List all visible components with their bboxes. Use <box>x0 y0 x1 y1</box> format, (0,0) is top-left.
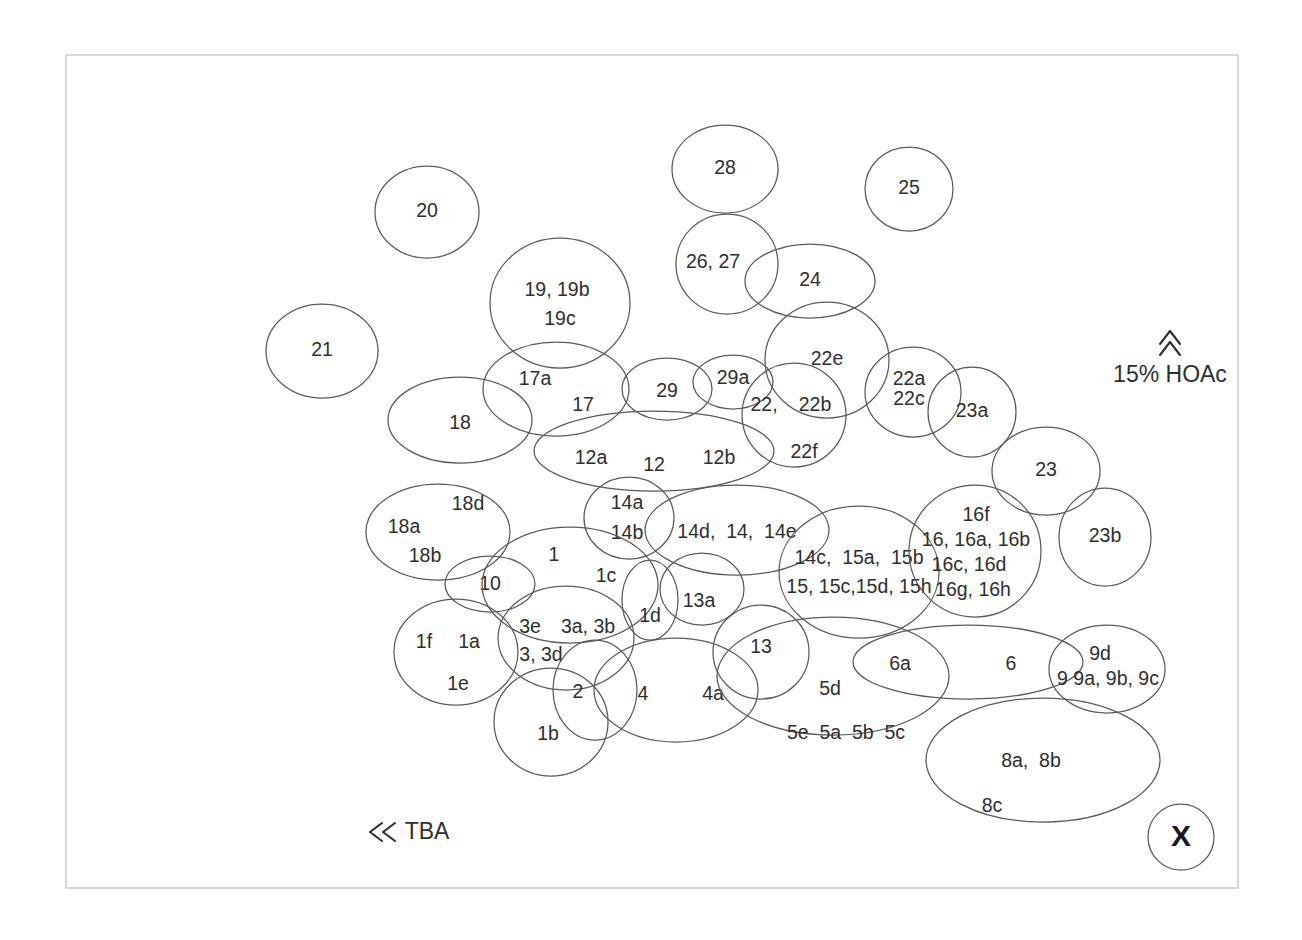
spot-1f-1a-1e-label-1: 1a <box>458 630 480 652</box>
spot-5-label-1: 5e 5a 5b 5c <box>787 721 905 743</box>
spot-1-label-0: 1 <box>549 543 560 565</box>
spot-18a-18b-18d-label-2: 18b <box>409 544 442 566</box>
spot-23a-label-0: 23a <box>956 399 989 421</box>
spot-23b-label-0: 23b <box>1089 524 1122 546</box>
spot-8-label-0: 8a, 8b <box>1001 749 1061 771</box>
spot-13a-label-0: 13a <box>683 589 716 611</box>
spot-16-label-1: 16, 16a, 16b <box>922 528 1031 550</box>
spot-18a-18b-18d-label-0: 18d <box>452 492 485 514</box>
spot-14d-14-14e-label-0: 14d, 14, 14e <box>677 520 796 542</box>
spot-29a-label-0: 29a <box>717 366 750 388</box>
spot-3-label-0: 3e <box>519 615 541 637</box>
spot-1f-1a-1e-label-0: 1f <box>416 630 433 652</box>
spot-16-label-0: 16f <box>962 503 990 525</box>
spot-16-label-3: 16g, 16h <box>935 578 1011 600</box>
tlc-plate-canvas: 2021282526, 272419, 19b19c22e22a22c23a17… <box>0 0 1302 940</box>
spot-14a-14b-label-0: 14a <box>611 491 644 513</box>
spot-1b-label-0: 1b <box>537 722 559 744</box>
spot-21-label-0: 21 <box>311 338 333 360</box>
spot-4-label-1: 4a <box>702 682 724 704</box>
spot-25-label-0: 25 <box>898 176 920 198</box>
spot-4-label-0: 4 <box>638 682 649 704</box>
tlc-diagram: 2021282526, 272419, 19b19c22e22a22c23a17… <box>0 0 1302 940</box>
spot-9-label-1: 9 9a, 9b, 9c <box>1057 667 1159 689</box>
spot-16-label-2: 16c, 16d <box>932 553 1007 575</box>
spot-22a-22c-label-0: 22a <box>893 367 926 389</box>
spot-28-label-0: 28 <box>714 156 736 178</box>
spot-6-label-0: 6a <box>889 652 911 674</box>
spot-5-label-0: 5d <box>819 677 841 699</box>
spot-19-label-0: 19, 19b <box>524 278 589 300</box>
spot-9-label-0: 9d <box>1089 642 1111 664</box>
spot-22-label-1: 22b <box>799 393 832 415</box>
spot-6-label-1: 6 <box>1006 652 1017 674</box>
spot-12-label-2: 12b <box>703 446 736 468</box>
spot-17-label-1: 17 <box>572 393 594 415</box>
spot-12-label-1: 12 <box>643 453 665 475</box>
spot-18-label-0: 18 <box>449 411 471 433</box>
spot-22-label-2: 22f <box>790 440 818 462</box>
spot-18a-18b-18d-label-1: 18a <box>388 515 421 537</box>
spot-22a-22c-label-1: 22c <box>893 387 925 409</box>
spot-1d-label-0: 1d <box>639 604 661 626</box>
spot-13-label-0: 13 <box>750 635 772 657</box>
vertical-solvent-label: 15% HOAc <box>1113 361 1227 387</box>
spot-22e-label-0: 22e <box>811 347 844 369</box>
spot-3-label-1: 3a, 3b <box>561 615 615 637</box>
spot-14a-14b-label-1: 14b <box>611 521 644 543</box>
spot-2-label-0: 2 <box>573 680 584 702</box>
spot-23-label-0: 23 <box>1035 458 1057 480</box>
spot-29-label-0: 29 <box>656 379 678 401</box>
spot-14c-15-label-0: 14c, 15a, 15b <box>794 546 923 568</box>
origin-label: X <box>1171 819 1191 852</box>
spot-8-label-1: 8c <box>982 794 1003 816</box>
horizontal-solvent-label: TBA <box>405 818 450 844</box>
spot-12-label-0: 12a <box>575 446 608 468</box>
spot-14c-15-label-1: 15, 15c,15d, 15h <box>786 575 931 597</box>
spot-22-label-0: 22, <box>750 393 777 415</box>
spot-24-label-0: 24 <box>799 268 821 290</box>
spot-1-label-1: 1c <box>596 564 617 586</box>
spot-20-label-0: 20 <box>416 199 438 221</box>
spot-3-label-2: 3, 3d <box>519 643 562 665</box>
spot-1f-1a-1e-label-2: 1e <box>447 672 469 694</box>
spot-17-label-0: 17a <box>519 367 552 389</box>
spot-19-label-1: 19c <box>544 307 576 329</box>
spot-26-27-label-0: 26, 27 <box>686 250 740 272</box>
